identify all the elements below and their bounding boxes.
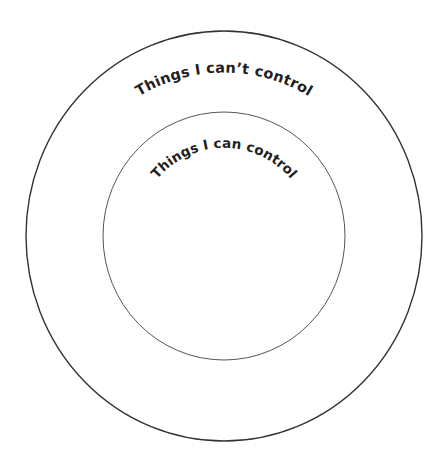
outer-circle-label: Things I can’t control [132,59,315,99]
inner-circle-label-text: Things I can control [147,135,300,182]
inner-circle-label: Things I can control [147,135,300,182]
outer-circle-label-text: Things I can’t control [132,59,315,99]
circle-of-control-diagram: Things I can’t control Things I can cont… [0,0,442,462]
outer-circle [26,31,422,441]
